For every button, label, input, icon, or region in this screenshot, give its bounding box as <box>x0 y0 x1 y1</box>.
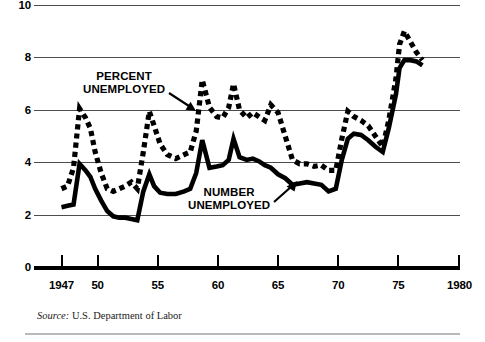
x-tick-label-1955: 55 <box>152 279 164 291</box>
x-axis-line <box>34 266 460 270</box>
annotation-number-unemployed: NUMBER UNEMPLOYED <box>188 186 270 212</box>
x-tick-label-1965: 65 <box>272 279 284 291</box>
x-tick-label-1970: 70 <box>332 279 344 291</box>
x-tick-label-1950: 50 <box>91 279 103 291</box>
x-tick-label-1980: 1980 <box>447 279 472 291</box>
annotation-percent-line1: PERCENT <box>83 70 165 83</box>
x-tick-label-1947: 1947 <box>49 279 74 291</box>
source-prefix: Source: <box>37 310 69 321</box>
source-note: Source: U.S. Department of Labor <box>37 310 182 321</box>
series-percent-unemployed <box>62 31 423 191</box>
x-tick-1975 <box>397 255 399 266</box>
x-tick-1960 <box>217 255 219 266</box>
x-tick-1955 <box>157 255 159 266</box>
bottom-divider <box>25 333 460 335</box>
x-tick-1950 <box>97 255 99 266</box>
annotation-percent-unemployed: PERCENT UNEMPLOYED <box>83 70 165 96</box>
annotation-number-line1: NUMBER <box>188 186 270 199</box>
x-tick-label-1960: 60 <box>212 279 224 291</box>
source-text: U.S. Department of Labor <box>72 310 182 321</box>
annotation-percent-arrow <box>168 92 202 116</box>
x-tick-1965 <box>277 255 279 266</box>
annotation-number-arrow <box>272 178 304 204</box>
x-tick-label-1975: 75 <box>392 279 404 291</box>
unemployment-chart: 10 8 6 4 2 0 PERCENT UNEMPLOYED NUMBER U… <box>0 0 485 342</box>
annotation-number-line2: UNEMPLOYED <box>188 199 270 212</box>
x-tick-1970 <box>337 255 339 266</box>
annotation-percent-line2: UNEMPLOYED <box>83 83 165 96</box>
x-tick-1980 <box>458 255 460 270</box>
x-tick-1947 <box>61 255 63 266</box>
